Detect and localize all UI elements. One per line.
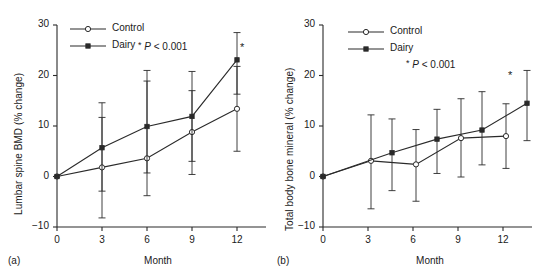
legend-label: Control [390, 25, 422, 36]
panel-b: Total body bone mineral (% change) Month… [273, 0, 546, 277]
panel-tag-b: (b) [277, 255, 289, 266]
x-tick-label: 12 [493, 234, 513, 245]
legend-label: Dairy [112, 39, 135, 50]
legend-label: Dairy [390, 42, 413, 53]
panel-a: Lumbar spine BMD (% change) Month (a) * … [0, 0, 273, 277]
y-tick-label: 0 [289, 170, 315, 181]
legend-item-control: Control [390, 25, 422, 36]
p-value-annotation-a: * P < 0.001 [138, 40, 187, 52]
x-tick-label: 6 [137, 234, 157, 245]
y-tick-label: 10 [289, 119, 315, 130]
legend-item-dairy: Dairy [390, 42, 413, 53]
legend-item-dairy: Dairy [112, 39, 135, 50]
p-note-star: * [406, 58, 410, 68]
x-tick-label: 12 [227, 234, 247, 245]
y-tick-label: 30 [23, 18, 49, 29]
y-tick-label: 10 [23, 119, 49, 130]
panel-tag-a: (a) [8, 255, 20, 266]
y-tick-label: 30 [289, 18, 315, 29]
y-axis-label-a: Lumbar spine BMD (% change) [13, 73, 24, 215]
x-tick-label: 3 [358, 234, 378, 245]
x-tick-label: 9 [448, 234, 468, 245]
x-tick-label: 3 [92, 234, 112, 245]
y-tick-label: −10 [289, 220, 315, 231]
y-tick-label: 20 [289, 69, 315, 80]
y-axis-label-b: Total body bone mineral (% change) [284, 68, 295, 232]
x-tick-label: 0 [313, 234, 333, 245]
x-tick-label: 6 [403, 234, 423, 245]
x-axis-label-a: Month [98, 255, 218, 266]
legend-item-control: Control [112, 22, 144, 33]
significance-star-a: * [240, 42, 244, 53]
p-note-symbol: P [412, 59, 419, 70]
p-note-value: < 0.001 [422, 59, 456, 70]
significance-star-b: * [508, 70, 512, 81]
y-tick-label: 20 [23, 69, 49, 80]
x-tick-label: 9 [182, 234, 202, 245]
legend-label: Control [112, 22, 144, 33]
y-tick-label: 0 [23, 170, 49, 181]
x-tick-label: 0 [47, 234, 67, 245]
p-note-star: * [138, 40, 142, 50]
p-note-symbol: P [144, 41, 151, 52]
p-note-value: < 0.001 [154, 41, 188, 52]
y-tick-label: −10 [23, 220, 49, 231]
p-value-annotation-b: * P < 0.001 [406, 58, 455, 70]
figure-container: Lumbar spine BMD (% change) Month (a) * … [0, 0, 546, 277]
x-axis-label-b: Month [370, 255, 490, 266]
